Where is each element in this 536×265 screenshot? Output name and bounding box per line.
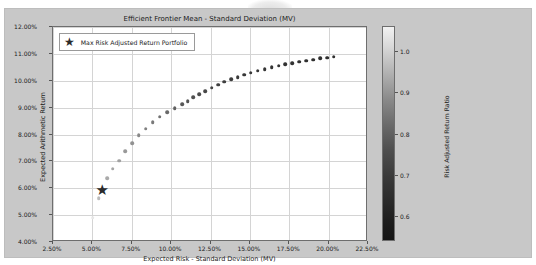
x-tick xyxy=(131,241,132,244)
figure-canvas: Efficient Frontier Mean - Standard Devia… xyxy=(4,8,532,258)
x-tick xyxy=(52,241,53,244)
x-tick-label: 17.50% xyxy=(277,245,300,252)
scatter-point xyxy=(263,67,267,71)
x-tick xyxy=(210,241,211,244)
x-tick xyxy=(367,241,368,244)
x-tick xyxy=(288,241,289,244)
y-tick xyxy=(49,160,52,161)
colorbar-tick-label: 0.8 xyxy=(400,130,410,137)
scatter-point xyxy=(173,106,177,110)
y-tick-label: 11.00% xyxy=(14,49,37,56)
scatter-point xyxy=(236,75,240,79)
y-tick-label: 5.00% xyxy=(18,211,37,218)
x-axis-label: Expected Risk - Standard Deviation (MV) xyxy=(52,255,367,263)
scatter-point xyxy=(198,92,202,96)
scatter-point xyxy=(223,80,227,84)
colorbar-tick xyxy=(395,175,398,176)
scatter-point xyxy=(180,103,184,107)
y-tick xyxy=(49,134,52,135)
y-tick xyxy=(49,241,52,242)
y-tick-label: 10.00% xyxy=(14,76,37,83)
scatter-point xyxy=(304,59,308,63)
colorbar-tick-label: 0.9 xyxy=(400,89,410,96)
gridline-horizontal xyxy=(53,215,366,216)
scatter-point xyxy=(151,120,155,124)
gridline-vertical xyxy=(92,27,93,240)
x-tick-label: 2.50% xyxy=(42,245,61,252)
legend: ★ Max Risk Adjusted Return Portfolio xyxy=(59,33,195,51)
scatter-point xyxy=(242,73,246,77)
legend-item-label: Max Risk Adjusted Return Portfolio xyxy=(81,39,188,46)
scatter-point xyxy=(158,115,162,119)
scatter-point xyxy=(284,62,288,66)
gridline-vertical xyxy=(289,27,290,240)
scatter-point xyxy=(144,127,148,131)
chart-title: Efficient Frontier Mean - Standard Devia… xyxy=(52,15,367,23)
scatter-point xyxy=(256,69,260,73)
y-tick xyxy=(49,26,52,27)
scatter-point xyxy=(186,99,190,103)
gridline-vertical xyxy=(211,27,212,240)
gridline-horizontal xyxy=(53,54,366,55)
y-tick-label: 6.00% xyxy=(18,184,37,191)
scatter-point xyxy=(318,57,322,61)
colorbar-tick xyxy=(395,92,398,93)
gridline-horizontal xyxy=(53,135,366,136)
x-tick-label: 15.00% xyxy=(237,245,260,252)
scatter-point xyxy=(210,86,214,90)
y-tick xyxy=(49,214,52,215)
plot-area: ★ ★ Max Risk Adjusted Return Portfolio xyxy=(52,26,367,241)
chart-screenshot: Efficient Frontier Mean - Standard Devia… xyxy=(0,0,536,265)
scatter-point xyxy=(204,89,208,93)
gridline-vertical xyxy=(250,27,251,240)
gridline-vertical xyxy=(53,27,54,240)
scatter-point xyxy=(291,61,295,65)
x-tick xyxy=(249,241,250,244)
colorbar-tick xyxy=(395,216,398,217)
scatter-point xyxy=(311,58,315,62)
y-tick-label: 9.00% xyxy=(18,103,37,110)
x-tick-label: 7.50% xyxy=(121,245,140,252)
x-tick-label: 5.00% xyxy=(82,245,101,252)
gridline-vertical xyxy=(171,27,172,240)
colorbar-tick-label: 0.7 xyxy=(400,171,410,178)
scatter-point xyxy=(277,64,281,68)
y-tick xyxy=(49,187,52,188)
colorbar-tick-label: 0.6 xyxy=(400,213,410,220)
colorbar-tick xyxy=(395,134,398,135)
gridline-horizontal xyxy=(53,27,366,28)
scatter-point xyxy=(137,133,141,137)
gridline-vertical xyxy=(132,27,133,240)
colorbar xyxy=(382,26,395,241)
max-risk-adjusted-return-star-marker: ★ xyxy=(95,182,108,197)
gridline-horizontal xyxy=(53,108,366,109)
legend-star-icon: ★ xyxy=(64,36,75,48)
y-tick-label: 7.00% xyxy=(18,157,37,164)
x-tick-label: 22.50% xyxy=(356,245,379,252)
scatter-point xyxy=(130,141,134,145)
scatter-point xyxy=(192,96,196,100)
y-tick-label: 8.00% xyxy=(18,130,37,137)
y-tick-label: 12.00% xyxy=(14,23,37,30)
gridline-horizontal xyxy=(53,161,366,162)
scatter-point xyxy=(117,159,121,163)
scatter-point xyxy=(91,216,95,220)
y-axis-label: Expected Arithmetic Return xyxy=(39,57,47,217)
colorbar-label: Risk Adjusted Return Ratio xyxy=(443,57,450,217)
scatter-point xyxy=(111,167,115,171)
y-tick-label: 4.00% xyxy=(18,238,37,245)
scatter-point xyxy=(270,66,274,70)
scatter-point xyxy=(216,83,220,87)
scatter-point xyxy=(124,149,128,153)
scatter-point xyxy=(165,111,169,115)
x-tick-label: 10.00% xyxy=(159,245,182,252)
colorbar-tick-label: 1.0 xyxy=(400,47,410,54)
scatter-point xyxy=(229,77,233,81)
x-tick-label: 12.50% xyxy=(198,245,221,252)
top-artifact xyxy=(248,0,292,8)
scatter-point xyxy=(332,55,336,59)
y-tick xyxy=(49,53,52,54)
x-tick xyxy=(328,241,329,244)
x-tick-label: 20.00% xyxy=(316,245,339,252)
gridline-horizontal xyxy=(53,81,366,82)
